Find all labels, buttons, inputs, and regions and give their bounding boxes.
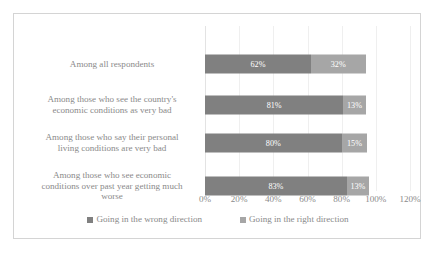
chart-container: Among all respondentsAmong those who see…	[13, 13, 421, 239]
chart-legend: Going in the wrong directionGoing in the…	[14, 214, 422, 225]
bar-segment-right-direction: 32%	[311, 55, 366, 74]
legend-item[interactable]: Going in the right direction	[240, 214, 349, 225]
bar-row: 80%15%	[205, 134, 410, 153]
legend-label: Going in the wrong direction	[96, 214, 202, 225]
legend-swatch-icon	[87, 217, 93, 223]
x-axis-tick-label: 20%	[231, 194, 248, 205]
x-axis-tick-label: 80%	[333, 194, 350, 205]
bar-row: 62%32%	[205, 55, 410, 74]
bar-row: 83%13%	[205, 177, 410, 196]
legend-label: Going in the right direction	[249, 214, 349, 225]
x-axis-tick-label: 40%	[265, 194, 282, 205]
bar-segment-right-direction: 13%	[343, 96, 365, 115]
x-axis-tick-label: 120%	[399, 194, 420, 205]
bar-segment-right-direction: 13%	[347, 177, 369, 196]
plot-area: Among all respondentsAmong those who see…	[14, 14, 422, 240]
x-axis-tick-label: 100%	[365, 194, 386, 205]
bar-segment-wrong-direction: 62%	[205, 55, 311, 74]
legend-item[interactable]: Going in the wrong direction	[87, 214, 202, 225]
gridline	[410, 26, 411, 191]
bar-segment-wrong-direction: 80%	[205, 134, 342, 153]
bar-segment-wrong-direction: 83%	[205, 177, 347, 196]
category-label: Among those who see the country'seconomi…	[20, 94, 204, 115]
category-label: Among all respondents	[20, 59, 204, 70]
legend-swatch-icon	[240, 217, 246, 223]
category-label: Among those who see economicconditions o…	[20, 170, 204, 202]
bar-segment-right-direction: 15%	[342, 134, 368, 153]
x-axis-tick-label: 0%	[199, 194, 211, 205]
x-axis-tick-label: 60%	[299, 194, 316, 205]
category-label: Among those who say their personalliving…	[20, 132, 204, 153]
bar-segment-wrong-direction: 81%	[205, 96, 343, 115]
bar-row: 81%13%	[205, 96, 410, 115]
